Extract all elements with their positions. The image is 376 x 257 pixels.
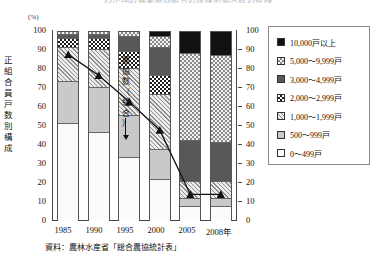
- y-tick-label: 90: [26, 44, 46, 54]
- legend-item[interactable]: 3,000〜4,999戸: [277, 70, 369, 89]
- y-tick-mark-right: [238, 106, 242, 107]
- legend-item[interactable]: 2,000〜2,999戸: [277, 89, 369, 108]
- y-axis-caption-char: 成: [2, 143, 15, 154]
- x-tick-label: 2008年: [197, 225, 241, 237]
- y-tick-mark-right: [238, 144, 242, 145]
- annotation-char: 合: [120, 109, 132, 120]
- y-tick-mark-right: [238, 125, 242, 126]
- y-tick-mark-right: [238, 87, 242, 88]
- legend-swatch-icon: [277, 38, 285, 46]
- series-annotation-label: 農 協 数 （ 組 合 ）: [120, 56, 132, 130]
- legend-item-label: 2,000〜2,999戸: [290, 92, 342, 103]
- legend-swatch-icon: [277, 149, 285, 157]
- legend-swatch-icon: [277, 94, 285, 102]
- y-tick-mark-right: [238, 49, 242, 50]
- legend-swatch-icon: [277, 112, 285, 120]
- y-tick-label-right: 10: [246, 196, 268, 206]
- legend-item-label: 1,000〜1,999戸: [290, 111, 342, 122]
- y-tick-label: 60: [26, 101, 46, 111]
- legend-swatch-icon: [277, 75, 285, 83]
- y-axis-caption: 正 組 合 員 戸 数 別 構 成: [2, 55, 15, 154]
- y-axis-caption-char: 別: [2, 121, 15, 132]
- legend-item-label: 3,000〜4,999戸: [290, 74, 342, 85]
- legend-item[interactable]: 500〜999戸: [277, 126, 369, 145]
- y-axis-unit: (%): [28, 13, 39, 21]
- chart-legend: 10,000戸以上 5,000〜9,999戸 3,000〜4,999戸 2,00…: [268, 26, 370, 165]
- legend-swatch-icon: [277, 57, 285, 65]
- y-axis-caption-char: 数: [2, 110, 15, 121]
- chart-figure: (%) 正 組 合 員 戸 数 別 構 成 100 90 80 70 60 50…: [0, 0, 376, 257]
- y-tick-mark-right: [238, 163, 242, 164]
- y-tick-label: 100: [26, 25, 46, 35]
- legend-item[interactable]: 1,000〜1,999戸: [277, 107, 369, 126]
- y-axis-caption-char: 構: [2, 132, 15, 143]
- annotation-char: 組: [120, 98, 132, 109]
- y-tick-label: 70: [26, 82, 46, 92]
- y-tick-label-right: 70: [246, 82, 268, 92]
- y-tick-mark-right: [238, 201, 242, 202]
- legend-swatch-icon: [277, 131, 285, 139]
- legend-item[interactable]: 0〜499戸: [277, 144, 369, 163]
- legend-item[interactable]: 10,000戸以上: [277, 33, 369, 52]
- y-tick-mark-right: [238, 182, 242, 183]
- legend-item-label: 10,000戸以上: [290, 37, 336, 48]
- y-tick-label-right: 30: [246, 158, 268, 168]
- y-tick-label: 80: [26, 63, 46, 73]
- source-note: 資料：農林水産省「総合農協統計表」: [45, 241, 181, 252]
- annotation-char: ）: [120, 119, 132, 130]
- legend-item[interactable]: 5,000〜9,999戸: [277, 52, 369, 71]
- annotation-char: 農: [120, 56, 132, 67]
- legend-item-label: 5,000〜9,999戸: [290, 55, 342, 66]
- annotation-arrow-icon: [125, 118, 126, 136]
- y-axis-caption-char: 正: [2, 55, 15, 66]
- y-tick-label-right: 60: [246, 101, 268, 111]
- y-tick-label-right: 40: [246, 139, 268, 149]
- y-tick-label: 0: [26, 215, 46, 225]
- y-tick-label: 50: [26, 120, 46, 130]
- y-axis-caption-char: 員: [2, 88, 15, 99]
- y-axis-caption-char: 組: [2, 66, 15, 77]
- y-tick-label-right: 20: [246, 177, 268, 187]
- y-tick-label-right: 90: [246, 44, 268, 54]
- plot-area: [52, 30, 237, 221]
- legend-item-label: 0〜499戸: [290, 148, 322, 159]
- y-tick-label-right: 100: [246, 25, 268, 35]
- y-tick-label: 30: [26, 158, 46, 168]
- annotation-char: 協: [120, 67, 132, 78]
- y-tick-label-right: 0: [246, 215, 268, 225]
- annotation-char: （: [120, 88, 132, 99]
- y-tick-label-right: 50: [246, 120, 268, 130]
- annotation-char: 数: [120, 77, 132, 88]
- y-tick-label: 40: [26, 139, 46, 149]
- y-tick-label: 20: [26, 177, 46, 187]
- line-overlay: [53, 30, 236, 219]
- y-axis-caption-char: 合: [2, 77, 15, 88]
- y-axis-caption-char: 戸: [2, 99, 15, 110]
- y-tick-mark-right: [238, 68, 242, 69]
- legend-item-label: 500〜999戸: [290, 129, 330, 140]
- y-tick-label-right: 80: [246, 63, 268, 73]
- y-tick-label: 10: [26, 196, 46, 206]
